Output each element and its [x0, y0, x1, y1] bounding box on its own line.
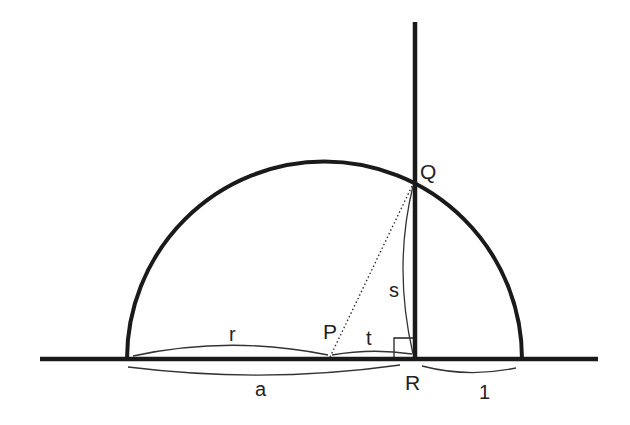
label-a: a — [255, 379, 266, 399]
geometry-diagram — [0, 0, 630, 425]
label-r-lower: r — [229, 324, 236, 344]
label-p: P — [323, 321, 337, 342]
brace-s — [403, 186, 413, 354]
label-s: s — [389, 280, 399, 300]
label-r: R — [405, 372, 420, 393]
label-q: Q — [420, 161, 436, 182]
brace-a — [128, 365, 400, 375]
brace-t — [332, 351, 412, 355]
brace-r — [133, 345, 328, 356]
label-one: 1 — [479, 382, 490, 402]
brace-one — [422, 366, 516, 373]
label-t: t — [366, 328, 372, 348]
